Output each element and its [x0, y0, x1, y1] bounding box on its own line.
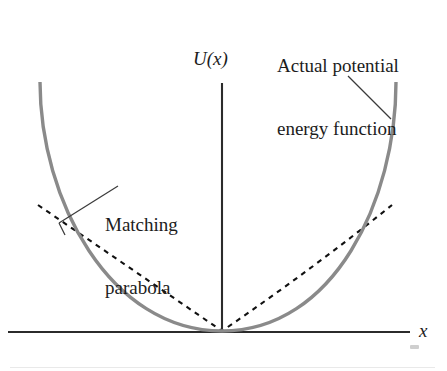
matching-parabola-label: Matching parabola — [105, 171, 178, 341]
y-axis-label: U(x) — [193, 48, 228, 69]
matching-parabola-label-line-2: parabola — [105, 277, 178, 298]
matching-parabola-leader-tick — [59, 223, 65, 235]
actual-potential-label: Actual potential energy function — [277, 12, 399, 182]
scan-bottom-line-artifact — [10, 367, 435, 368]
x-axis-label: x — [419, 320, 427, 341]
potential-energy-figure: Actual potential energy function Matchin… — [0, 0, 447, 371]
matching-parabola-label-line-1: Matching — [105, 214, 178, 235]
actual-potential-label-line-1: Actual potential — [277, 55, 399, 76]
actual-potential-label-line-2: energy function — [277, 118, 399, 139]
scan-corner-artifact — [410, 345, 419, 349]
